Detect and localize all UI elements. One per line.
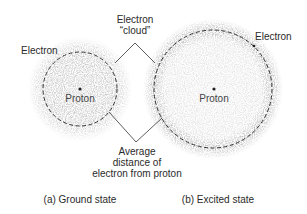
electron-cloud-label: Electron “cloud”	[117, 14, 154, 36]
excited-state-caption: (b) Excited state	[182, 194, 254, 205]
average-distance-label: Average distance of electron from proton	[92, 146, 182, 179]
electron-cloud-diagram: Electron “cloud” Average distance of ele…	[0, 0, 307, 214]
excited-state-proton-label: Proton	[199, 93, 228, 104]
average-distance-label-line1: Average	[92, 146, 182, 157]
excited-state-proton-dot	[212, 87, 215, 90]
ground-state-proton-dot	[78, 87, 81, 90]
excited-state-electron-label: Electron	[255, 31, 292, 42]
ground-state-proton-label: Proton	[65, 93, 94, 104]
average-distance-label-line2: distance of	[92, 157, 182, 168]
ground-state-electron-label: Electron	[21, 45, 58, 56]
electron-cloud-label-line2: “cloud”	[117, 25, 154, 36]
average-distance-label-line3: electron from proton	[92, 168, 182, 179]
excited-state-electron-dot	[253, 45, 256, 48]
ground-state-caption: (a) Ground state	[44, 194, 117, 205]
electron-cloud-label-line1: Electron	[117, 14, 154, 25]
